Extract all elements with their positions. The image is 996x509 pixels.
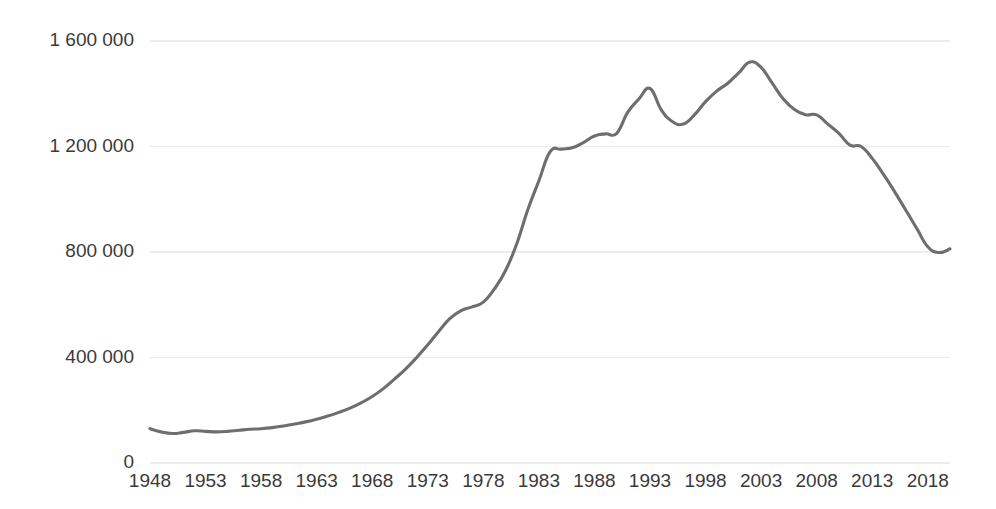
x-tick-label: 1978 xyxy=(462,470,504,491)
line-chart: 0400 000800 0001 200 0001 600 000 194819… xyxy=(0,0,996,509)
series-line xyxy=(150,62,950,434)
data-series xyxy=(150,62,950,434)
x-tick-label: 1973 xyxy=(407,470,449,491)
y-tick-label: 400 000 xyxy=(65,346,134,367)
x-tick-label: 1948 xyxy=(129,470,171,491)
x-tick-label: 1953 xyxy=(184,470,226,491)
x-tick-label: 2008 xyxy=(796,470,838,491)
y-tick-label: 800 000 xyxy=(65,240,134,261)
x-tick-label: 1993 xyxy=(629,470,671,491)
y-axis-tick-labels: 0400 000800 0001 200 0001 600 000 xyxy=(49,29,134,472)
y-tick-label: 1 600 000 xyxy=(49,29,134,50)
x-axis-tick-labels: 1948195319581963196819731978198319881993… xyxy=(129,470,949,491)
y-tick-label: 1 200 000 xyxy=(49,135,134,156)
chart-canvas: 0400 000800 0001 200 0001 600 000 194819… xyxy=(0,0,996,509)
x-tick-label: 2003 xyxy=(740,470,782,491)
x-tick-label: 1968 xyxy=(351,470,393,491)
gridlines xyxy=(150,41,950,463)
x-tick-label: 1958 xyxy=(240,470,282,491)
x-tick-label: 1998 xyxy=(684,470,726,491)
x-tick-label: 2018 xyxy=(907,470,949,491)
x-tick-label: 1963 xyxy=(296,470,338,491)
x-tick-label: 1983 xyxy=(518,470,560,491)
x-tick-label: 1988 xyxy=(573,470,615,491)
x-tick-label: 2013 xyxy=(851,470,893,491)
